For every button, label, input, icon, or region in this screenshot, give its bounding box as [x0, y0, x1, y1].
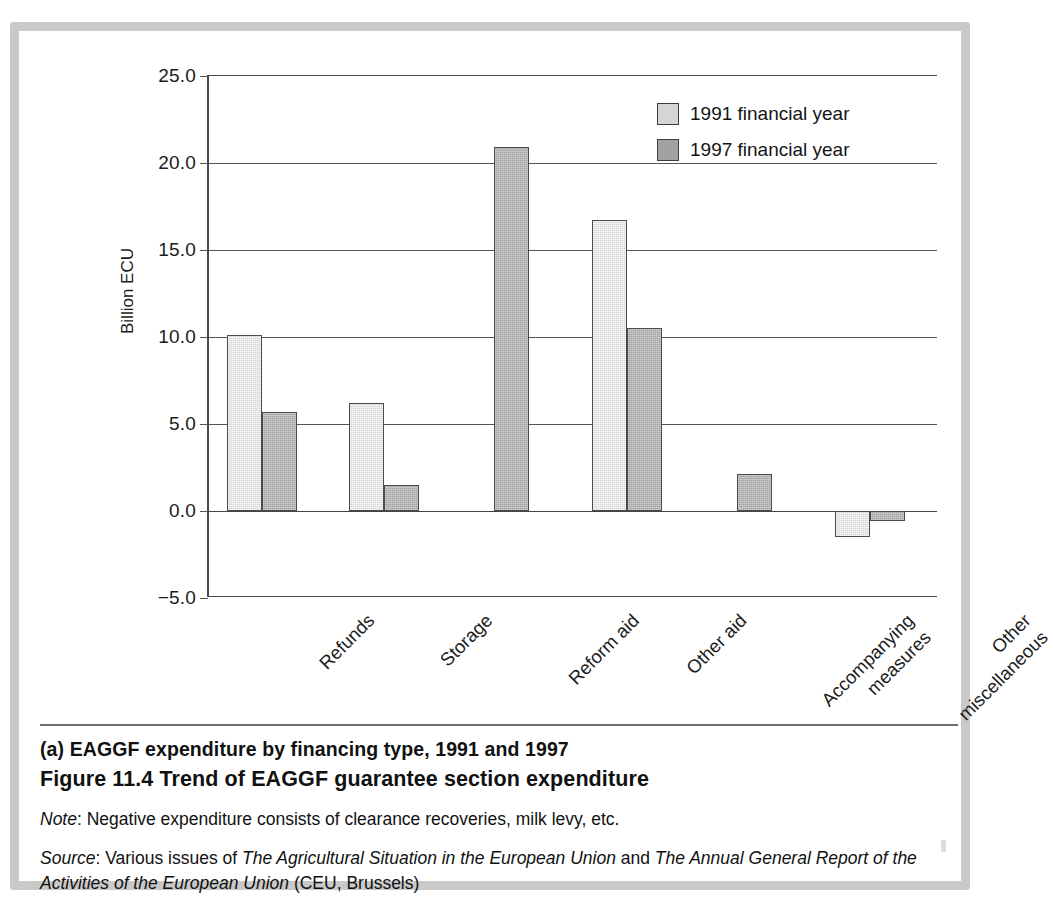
y-tick-mark: [200, 250, 208, 251]
y-axis-title: Billion ECU: [118, 248, 138, 334]
y-tick-label: 10.0: [158, 326, 196, 348]
x-category-label-line: measures: [862, 626, 934, 698]
note-body: : Negative expenditure consists of clear…: [77, 809, 619, 829]
source-label: Source: [40, 848, 95, 868]
gridline-10.0: [209, 337, 937, 338]
chart: Billion ECU 25.020.015.010.05.00.0−5.0 R…: [22, 34, 958, 724]
legend-item-1991: 1991 financial year: [657, 102, 850, 126]
source-lead: : Various issues of: [95, 848, 242, 868]
legend-item-1997: 1997 financial year: [657, 138, 850, 162]
bar: [627, 328, 662, 511]
y-tick-label: 0.0: [169, 500, 196, 522]
legend-swatch-1991: [657, 103, 679, 125]
x-category-label-line: Other aid: [682, 610, 751, 679]
legend-label-1997: 1997 financial year: [690, 139, 850, 161]
bar: [870, 511, 905, 521]
y-tick-mark: [200, 598, 208, 599]
figure-inner-panel: Billion ECU 25.020.015.010.05.00.0−5.0 R…: [22, 34, 958, 878]
x-category-label-line: Accompanying: [817, 610, 918, 711]
subfigure-caption: (a) EAGGF expenditure by financing type,…: [40, 738, 940, 761]
caption-divider: [40, 724, 958, 726]
x-category-label-line: Refunds: [315, 610, 379, 674]
y-tick-label: 20.0: [158, 152, 196, 174]
bar: [592, 220, 627, 511]
gridline-15.0: [209, 250, 937, 251]
source-conjunction: and: [616, 848, 655, 868]
bar: [262, 412, 297, 511]
y-tick-label: −5.0: [158, 587, 196, 609]
bar: [384, 485, 419, 511]
note-text: Note: Negative expenditure consists of c…: [40, 807, 940, 832]
y-tick-label: 15.0: [158, 239, 196, 261]
x-category-label: Storage: [434, 609, 497, 672]
y-tick-label: 5.0: [169, 413, 196, 435]
chart-legend: 1991 financial year 1997 financial year: [657, 102, 850, 174]
y-tick-mark: [200, 76, 208, 77]
source-tail: (CEU, Brussels): [289, 873, 419, 893]
note-label: Note: [40, 809, 77, 829]
legend-swatch-1997: [657, 139, 679, 161]
page-edge-shadow: [941, 840, 946, 852]
y-tick-mark: [200, 337, 208, 338]
bar: [737, 474, 772, 511]
bar: [835, 511, 870, 537]
x-category-label: Other aid: [681, 609, 752, 680]
x-category-label-line: Other: [987, 610, 1035, 658]
y-tick-mark: [200, 163, 208, 164]
y-tick-mark: [200, 424, 208, 425]
x-category-label: Refunds: [314, 609, 379, 674]
legend-label-1991: 1991 financial year: [690, 103, 850, 125]
y-tick-mark: [200, 511, 208, 512]
bar: [227, 335, 262, 511]
source-text: Source: Various issues of The Agricultur…: [40, 846, 940, 896]
x-category-label-line: Reform aid: [564, 610, 643, 689]
figure-caption: Figure 11.4 Trend of EAGGF guarantee sec…: [40, 767, 940, 792]
x-category-label: Reform aid: [564, 609, 645, 690]
source-publication-1: The Agricultural Situation in the Europe…: [242, 848, 616, 868]
bar: [349, 403, 384, 511]
caption-block: (a) EAGGF expenditure by financing type,…: [40, 724, 940, 896]
x-category-label-line: Storage: [435, 610, 496, 671]
y-tick-label: 25.0: [158, 65, 196, 87]
gridline-0.0: [209, 511, 937, 512]
x-category-label: Othermiscellaneous: [936, 609, 1052, 725]
x-category-label: Accompanyingmeasures: [816, 609, 935, 728]
gridline-5.0: [209, 424, 937, 425]
bar: [494, 147, 529, 511]
